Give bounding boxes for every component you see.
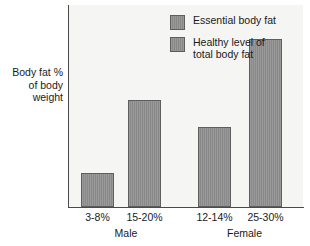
tick-label: 25-30% [238,211,294,223]
bar-15-20 [128,100,161,207]
legend-item-label: Healthy level of total body fat [193,36,265,60]
group-label-male: Male [68,227,184,239]
x-axis-line [68,207,304,208]
bar-25-30 [249,39,282,207]
bar-12-14 [198,127,231,207]
bar-3-8 [81,173,114,207]
y-axis-line [68,5,69,208]
legend-swatch-icon [170,37,185,52]
legend-item-label: Essential body fat [193,14,276,26]
legend-swatch-icon [170,15,185,30]
group-label-female: Female [186,227,303,239]
legend-item-healthy-total-body-fat: Healthy level of total body fat [170,36,265,60]
legend-item-essential-body-fat: Essential body fat [170,14,276,30]
tick-label: 15-20% [117,211,173,223]
body-fat-bar-chart: Body fat % of body weight Essential body… [0,0,310,246]
tick-label: 12-14% [187,211,243,223]
y-axis-label: Body fat % of body weight [0,66,63,104]
